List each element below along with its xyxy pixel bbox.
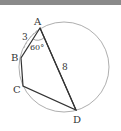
- vertex-a-label: A: [33, 16, 42, 27]
- vertex-d-label: D: [73, 114, 81, 125]
- vertex-c-label: C: [13, 84, 21, 95]
- angle-arc: [33, 38, 44, 40]
- diagonal-ad: [40, 28, 76, 110]
- side-ab-label: 3: [22, 32, 28, 42]
- angle-label: 60°: [30, 43, 44, 52]
- cyclic-quadrilateral-diagram: A B C D 3 60° 8: [0, 0, 121, 131]
- vertex-b-label: B: [11, 52, 18, 63]
- diagonal-length-label: 8: [62, 62, 68, 72]
- quadrilateral-abcd: [21, 28, 76, 110]
